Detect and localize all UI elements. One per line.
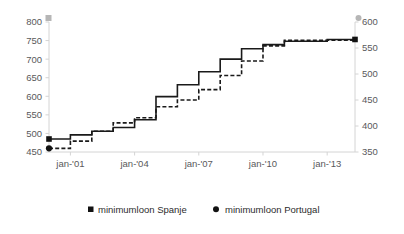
right-axis-tick-label: 600	[362, 16, 378, 27]
marker-portugal-start	[46, 145, 52, 151]
left-axis-cap-square-icon	[46, 15, 52, 21]
right-axis-tick-label: 500	[362, 68, 378, 79]
right-axis-cap-circle-icon	[356, 15, 362, 21]
legend-label-portugal: minimumloon Portugal	[225, 204, 320, 215]
x-axis-tick-label: jan-'10	[248, 158, 277, 169]
right-axis-tick-label: 550	[362, 42, 378, 53]
x-axis-tick-label: jan-'01	[55, 158, 84, 169]
right-axis-tick-label: 400	[362, 120, 378, 131]
legend-label-spain: minimumloon Spanje	[98, 204, 187, 215]
left-axis-tick-label: 700	[26, 54, 42, 65]
chart-background	[0, 0, 404, 234]
x-axis-tick-label: jan-'04	[119, 158, 148, 169]
legend-marker-square-icon	[88, 207, 94, 213]
left-axis-tick-label: 800	[26, 16, 42, 27]
left-axis-tick-label: 650	[26, 72, 42, 83]
left-axis-tick-label: 600	[26, 91, 42, 102]
legend-marker-circle-icon	[213, 206, 219, 212]
x-axis-tick-label: jan-'07	[184, 158, 213, 169]
marker-spain-start	[46, 136, 52, 142]
left-axis-tick-label: 450	[26, 146, 42, 157]
left-axis-tick-label: 500	[26, 128, 42, 139]
left-axis-tick-label: 750	[26, 35, 42, 46]
right-axis-tick-label: 450	[362, 94, 378, 105]
x-axis-tick-label: jan-'13	[312, 158, 341, 169]
dual-axis-line-chart: 450500550600650700750800 350400450500550…	[0, 0, 404, 234]
marker-spain-end	[352, 37, 358, 43]
right-axis-tick-label: 350	[362, 146, 378, 157]
left-axis-tick-label: 550	[26, 109, 42, 120]
